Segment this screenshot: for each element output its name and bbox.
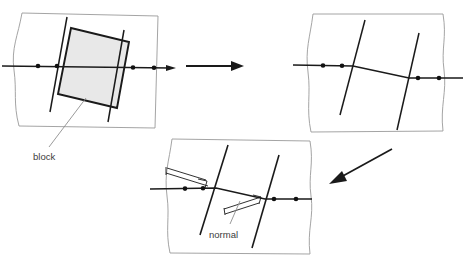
arrow-diagonal bbox=[329, 149, 392, 184]
marker-line bbox=[150, 188, 312, 199]
fracture-line-right bbox=[252, 155, 279, 248]
normal-vector-2 bbox=[224, 195, 261, 215]
marker-dot bbox=[183, 186, 188, 191]
marker-dot bbox=[55, 64, 60, 69]
panel-initial: block bbox=[2, 13, 176, 162]
arrow-diagonal-head bbox=[329, 171, 347, 184]
normal-label: normal bbox=[209, 229, 238, 240]
fracture-line-right bbox=[397, 33, 419, 130]
normal-leader-line bbox=[230, 201, 240, 224]
marker-line bbox=[293, 65, 463, 78]
marker-dot bbox=[272, 197, 277, 202]
arrow-right bbox=[186, 61, 244, 71]
marker-dot bbox=[36, 64, 41, 69]
normal-vector-1 bbox=[166, 167, 208, 188]
schematic-diagram-svg: block bbox=[0, 0, 463, 262]
marker-dot bbox=[416, 76, 421, 81]
normal-line-1b bbox=[167, 168, 206, 180]
panel-displaced bbox=[293, 14, 463, 132]
panel-normal: normal bbox=[150, 139, 312, 254]
normal-line-2 bbox=[224, 197, 261, 209]
panel-normal-outline bbox=[166, 139, 312, 254]
marker-dot bbox=[437, 76, 442, 81]
marker-dot bbox=[131, 65, 136, 70]
marker-line bbox=[2, 66, 170, 68]
block-leader-line bbox=[49, 98, 86, 147]
marker-line-arrowhead bbox=[166, 65, 176, 71]
marker-dot bbox=[152, 66, 157, 71]
arrow-diagonal-shaft bbox=[341, 149, 392, 177]
block-label: block bbox=[33, 151, 55, 162]
marker-dot bbox=[321, 63, 326, 68]
marker-dot bbox=[201, 186, 206, 191]
marker-dot bbox=[294, 197, 299, 202]
normal-line-2b bbox=[225, 203, 259, 214]
panel-displaced-outline bbox=[307, 14, 445, 132]
diagram-root: block bbox=[0, 0, 463, 262]
arrow-right-head bbox=[231, 61, 244, 71]
marker-dot bbox=[340, 64, 345, 69]
